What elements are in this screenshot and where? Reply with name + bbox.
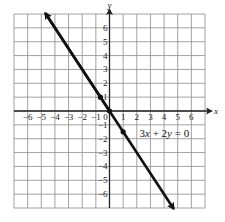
svg-text:−4: −4 bbox=[50, 112, 60, 122]
axes bbox=[14, 10, 211, 208]
svg-text:4: 4 bbox=[103, 51, 108, 61]
svg-text:3: 3 bbox=[148, 112, 153, 122]
svg-text:2: 2 bbox=[135, 112, 140, 122]
svg-text:−3: −3 bbox=[98, 148, 108, 158]
svg-text:6: 6 bbox=[189, 112, 194, 122]
svg-text:−5: −5 bbox=[36, 112, 46, 122]
svg-text:1: 1 bbox=[121, 112, 126, 122]
svg-text:5: 5 bbox=[103, 37, 108, 47]
svg-text:−1: −1 bbox=[98, 120, 108, 130]
x-axis-label: x bbox=[213, 106, 218, 116]
svg-text:−4: −4 bbox=[98, 161, 108, 171]
svg-text:−3: −3 bbox=[64, 112, 74, 122]
svg-text:−2: −2 bbox=[77, 112, 87, 122]
svg-text:−2: −2 bbox=[98, 134, 108, 144]
equation-label: 3x + 2y = 0 bbox=[140, 127, 190, 139]
coordinate-plane: −6−5−4−3−2−10123456−6−5−4−3−2−1123456 x … bbox=[0, 0, 225, 222]
svg-text:4: 4 bbox=[162, 112, 167, 122]
svg-text:6: 6 bbox=[103, 23, 108, 33]
svg-text:3: 3 bbox=[103, 64, 108, 74]
svg-text:−6: −6 bbox=[23, 112, 33, 122]
svg-text:−5: −5 bbox=[98, 175, 108, 185]
y-axis-label: y bbox=[107, 0, 112, 10]
svg-text:2: 2 bbox=[103, 78, 108, 88]
svg-text:−6: −6 bbox=[98, 189, 108, 199]
svg-text:5: 5 bbox=[175, 112, 180, 122]
